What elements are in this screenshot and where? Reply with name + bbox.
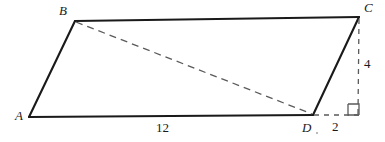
- edge-CD: [313, 17, 359, 115]
- edge-AB: [29, 21, 75, 117]
- vertex-label-b: B: [59, 4, 67, 17]
- edge-DA: [29, 115, 313, 117]
- vertex-label-a: A: [15, 109, 23, 122]
- altitude-C-to-foot: [358, 19, 359, 115]
- measure-label-offset: 2: [332, 120, 339, 133]
- edge-BC: [75, 17, 359, 21]
- geometry-figure: A B C D 12 4 2: [0, 0, 385, 142]
- print-speck: [316, 132, 318, 134]
- measure-label-base: 12: [156, 121, 169, 134]
- measure-label-height: 4: [364, 57, 371, 70]
- right-angle-marker: [348, 104, 359, 115]
- vertex-label-d: D: [302, 121, 311, 134]
- vertex-label-c: C: [364, 1, 373, 14]
- figure-canvas: [0, 0, 385, 142]
- diagonal-BD: [76, 22, 312, 114]
